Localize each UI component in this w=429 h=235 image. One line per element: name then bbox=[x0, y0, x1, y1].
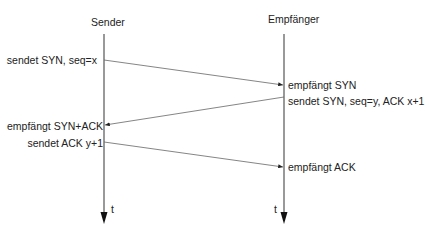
sequence-diagram bbox=[0, 0, 429, 235]
receiver-event-send-synack: sendet SYN, seq=y, ACK x+1 bbox=[288, 95, 424, 107]
receiver-event-receive-ack: empfängt ACK bbox=[288, 161, 356, 173]
sender-event-send-syn: sendet SYN, seq=x bbox=[7, 54, 97, 66]
message-syn-arrow bbox=[104, 60, 283, 85]
message-synack-arrow bbox=[105, 97, 284, 125]
sender-time-arrowhead-icon bbox=[101, 212, 108, 224]
message-ack-arrow bbox=[104, 142, 283, 167]
sender-event-send-ack: sendet ACK y+1 bbox=[27, 137, 103, 149]
receiver-time-label: t bbox=[274, 203, 277, 215]
receiver-event-receive-syn: empfängt SYN bbox=[288, 79, 356, 91]
participant-receiver-label: Empfänger bbox=[268, 13, 319, 25]
receiver-lifeline bbox=[281, 34, 288, 224]
receiver-time-arrowhead-icon bbox=[281, 212, 288, 224]
participant-sender-label: Sender bbox=[91, 16, 125, 28]
sender-event-receive-synack: empfängt SYN+ACK bbox=[7, 120, 103, 132]
sender-time-label: t bbox=[111, 203, 114, 215]
